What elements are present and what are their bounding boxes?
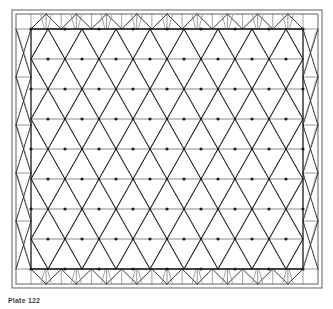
grid-node	[131, 207, 134, 210]
grid-node	[148, 237, 151, 240]
grid-node	[267, 267, 270, 270]
grid-node	[63, 147, 66, 150]
grid-node	[284, 177, 287, 180]
grid-node	[131, 267, 134, 270]
grid-node	[165, 267, 168, 270]
grid-node	[301, 27, 304, 30]
grid-node	[284, 117, 287, 120]
structure-drawing	[0, 0, 333, 309]
grid-node	[114, 177, 117, 180]
grid-node	[131, 87, 134, 90]
grid-node	[233, 207, 236, 210]
grid-node	[29, 207, 32, 210]
grid-node	[250, 117, 253, 120]
grid-node	[199, 207, 202, 210]
grid-node	[46, 117, 49, 120]
plate-figure: Plate 122	[0, 0, 333, 309]
grid-node	[29, 27, 32, 30]
grid-node	[63, 87, 66, 90]
grid-node	[97, 27, 100, 30]
grid-node	[29, 87, 32, 90]
grid-node	[233, 27, 236, 30]
grid-node	[165, 27, 168, 30]
grid-node	[182, 57, 185, 60]
grid-node	[97, 87, 100, 90]
plate-caption: Plate 122	[8, 296, 40, 305]
grid-node	[301, 267, 304, 270]
grid-node	[216, 57, 219, 60]
grid-node	[114, 117, 117, 120]
grid-node	[199, 267, 202, 270]
grid-node	[182, 237, 185, 240]
grid-node	[301, 87, 304, 90]
grid-node	[301, 207, 304, 210]
grid-node	[233, 147, 236, 150]
grid-node	[46, 57, 49, 60]
grid-node	[80, 177, 83, 180]
grid-node	[63, 207, 66, 210]
grid-node	[301, 147, 304, 150]
grid-node	[199, 87, 202, 90]
grid-node	[97, 147, 100, 150]
grid-node	[131, 147, 134, 150]
grid-node	[80, 57, 83, 60]
grid-node	[114, 237, 117, 240]
grid-node	[80, 237, 83, 240]
grid-node	[250, 177, 253, 180]
grid-node	[233, 87, 236, 90]
grid-node	[131, 27, 134, 30]
grid-node	[267, 147, 270, 150]
grid-node	[165, 147, 168, 150]
grid-node	[148, 57, 151, 60]
grid-node	[80, 117, 83, 120]
grid-node	[148, 177, 151, 180]
grid-node	[267, 87, 270, 90]
grid-node	[216, 177, 219, 180]
grid-node	[267, 207, 270, 210]
grid-node	[284, 237, 287, 240]
grid-node	[182, 177, 185, 180]
grid-node	[29, 267, 32, 270]
grid-node	[63, 27, 66, 30]
grid-node	[165, 87, 168, 90]
grid-node	[148, 117, 151, 120]
grid-node	[250, 237, 253, 240]
grid-node	[63, 267, 66, 270]
grid-node	[114, 57, 117, 60]
grid-node	[97, 267, 100, 270]
grid-node	[46, 177, 49, 180]
grid-node	[29, 147, 32, 150]
grid-node	[199, 27, 202, 30]
grid-node	[284, 57, 287, 60]
grid-node	[216, 117, 219, 120]
grid-node	[97, 207, 100, 210]
grid-node	[165, 207, 168, 210]
grid-node	[216, 237, 219, 240]
grid-node	[46, 237, 49, 240]
grid-node	[250, 57, 253, 60]
grid-node	[233, 267, 236, 270]
grid-node	[182, 117, 185, 120]
grid-node	[199, 147, 202, 150]
grid-node	[267, 27, 270, 30]
